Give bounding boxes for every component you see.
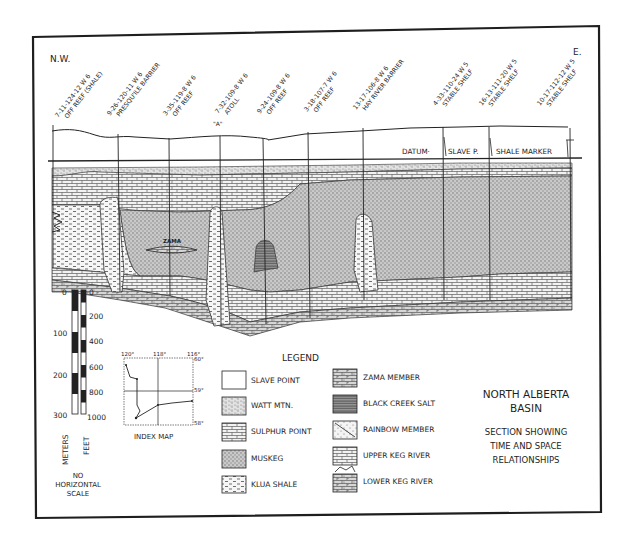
datum-label: DATUM· bbox=[402, 147, 430, 156]
scale-m-100: 100 bbox=[53, 329, 68, 338]
zama-lens-label: ZAMA bbox=[163, 238, 182, 244]
legend-label-klua-shale: KLUA SHALE bbox=[251, 480, 297, 489]
datum-slave-point-label: SLAVE P. bbox=[448, 147, 478, 156]
legend-label-lower-keg-river: LOWER KEG RIVER bbox=[363, 477, 433, 486]
figure-subtitle-line2: TIME AND SPACE bbox=[489, 441, 561, 451]
scale-m-200: 200 bbox=[53, 371, 68, 380]
well-2-desc: PRESQU'ILE BARRIER bbox=[115, 60, 162, 117]
scale-feet-label: FEET bbox=[82, 436, 91, 455]
legend-title: LEGEND bbox=[282, 353, 319, 363]
legend: LEGEND SLAVE POINT WATT MTN. SULPHUR POI… bbox=[222, 353, 435, 493]
legend-label-watt-mtn: WATT MTN. bbox=[251, 401, 293, 410]
legend-label-slave-point: SLAVE POINT bbox=[251, 376, 300, 385]
legend-label-muskeg: MUSKEG bbox=[251, 454, 283, 463]
scale-ft-1000: 1000 bbox=[87, 413, 106, 422]
no-horizontal-scale-line1: NO bbox=[73, 472, 84, 480]
direction-nw-label: N.W. bbox=[50, 54, 70, 64]
figure-subtitle-line3: RELATIONSHIPS bbox=[493, 455, 560, 465]
legend-swatch-sulphur-point bbox=[222, 423, 246, 441]
scale-ft-800: 800 bbox=[89, 388, 104, 397]
index-map-section-line bbox=[126, 365, 192, 418]
legend-swatch-zama-member bbox=[333, 369, 357, 387]
legend-label-sulphur-point: SULPHUR POINT bbox=[251, 427, 312, 436]
legend-swatch-upper-keg-river bbox=[333, 447, 357, 465]
index-map-lat-58: 58° bbox=[194, 420, 204, 426]
figure-subtitle-line1: SECTION SHOWING bbox=[485, 427, 568, 437]
vertical-scale: 0 100 200 300 0 200 400 600 800 1000 MET… bbox=[53, 288, 106, 498]
legend-label-upper-keg-river: UPPER KEG RIVER bbox=[363, 451, 430, 460]
scale-meters-label: METERS bbox=[61, 434, 70, 465]
cross-section: ZAMA DATUM· SLAVE P. SHALE MARKER "A" bbox=[48, 120, 582, 336]
well-labels: 7-11-124-12 W 6 OFF REEF (SHALE) 9-26-12… bbox=[53, 52, 582, 123]
scale-m-0: 0 bbox=[62, 288, 67, 297]
figure-title-line2: BASIN bbox=[510, 402, 542, 414]
index-map-lat-60: 60° bbox=[194, 356, 204, 362]
no-horizontal-scale-line2: HORIZONTAL bbox=[55, 481, 101, 489]
legend-swatch-slave-point bbox=[222, 371, 246, 389]
direction-e-label: E. bbox=[573, 47, 582, 57]
legend-swatch-black-creek-salt bbox=[333, 395, 357, 413]
legend-swatch-muskeg bbox=[222, 450, 246, 468]
legend-swatch-lower-keg-river bbox=[333, 474, 357, 492]
well-a-marker: "A" bbox=[213, 120, 223, 127]
legend-label-black-creek-salt: BLACK CREEK SALT bbox=[363, 399, 435, 408]
index-map-lat-59: 59° bbox=[194, 387, 204, 393]
figure-title-line1: NORTH ALBERTA bbox=[483, 388, 570, 400]
no-horizontal-scale-line3: SCALE bbox=[67, 490, 89, 498]
index-map: 120° 118° 116° 60° 59° 58° INDEX MAP bbox=[121, 351, 204, 441]
legend-swatch-klua-shale bbox=[222, 476, 246, 493]
legend-label-zama-member: ZAMA MEMBER bbox=[363, 373, 420, 382]
scale-ft-400: 400 bbox=[89, 337, 104, 346]
index-map-lon-118: 118° bbox=[153, 351, 166, 357]
scale-ft-200: 200 bbox=[89, 312, 104, 321]
legend-label-rainbow-member: RAINBOW MEMBER bbox=[363, 425, 434, 434]
datum-line bbox=[48, 158, 582, 161]
datum-shale-marker-label: SHALE MARKER bbox=[496, 147, 552, 156]
scale-m-300: 300 bbox=[53, 411, 68, 420]
index-map-title: INDEX MAP bbox=[134, 433, 173, 441]
scale-ft-0: 0 bbox=[89, 288, 94, 297]
legend-swatch-watt-mtn bbox=[222, 397, 246, 415]
title-block: NORTH ALBERTA BASIN SECTION SHOWING TIME… bbox=[483, 388, 570, 465]
cross-section-figure: N.W. E. ZAMA DATUM· SLAVE P bbox=[0, 0, 631, 546]
index-map-lon-120: 120° bbox=[121, 351, 134, 357]
scale-ft-600: 600 bbox=[89, 363, 104, 372]
